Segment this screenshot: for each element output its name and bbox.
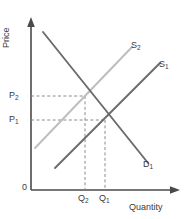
x-tick-q2-text: Q xyxy=(78,193,85,203)
y-axis-title: Price xyxy=(2,27,11,48)
origin-label: 0 xyxy=(22,183,27,192)
curve-label-s2-sub: 2 xyxy=(137,44,141,51)
chart-canvas xyxy=(0,0,190,219)
x-tick-q1-text: Q xyxy=(99,193,106,203)
supply-demand-chart: Price Quantity 0 P2 P1 Q2 Q1 S2 S1 D1 xyxy=(0,0,190,219)
x-tick-q2-sub: 2 xyxy=(85,197,89,204)
curve-label-d1-text: D xyxy=(143,159,150,169)
x-tick-q1: Q1 xyxy=(99,194,110,203)
curve-label-d1-sub: 1 xyxy=(150,163,154,170)
y-axis xyxy=(27,17,35,190)
x-tick-q2: Q2 xyxy=(78,194,89,203)
curve-label-s1-sub: 1 xyxy=(165,63,169,70)
curve-label-d1: D1 xyxy=(143,160,153,169)
supply-curve-s2 xyxy=(35,47,132,148)
y-tick-p2: P2 xyxy=(9,91,19,100)
supply-curve-s1 xyxy=(55,63,160,168)
x-axis-title: Quantity xyxy=(129,203,163,212)
x-tick-q1-sub: 1 xyxy=(106,197,110,204)
y-tick-p1: P1 xyxy=(9,115,19,124)
demand-curve-d1 xyxy=(43,32,148,163)
y-tick-p2-sub: 2 xyxy=(15,94,19,101)
y-tick-p1-sub: 1 xyxy=(15,118,19,125)
curve-label-s1: S1 xyxy=(159,60,169,69)
curve-label-s2: S2 xyxy=(131,41,141,50)
